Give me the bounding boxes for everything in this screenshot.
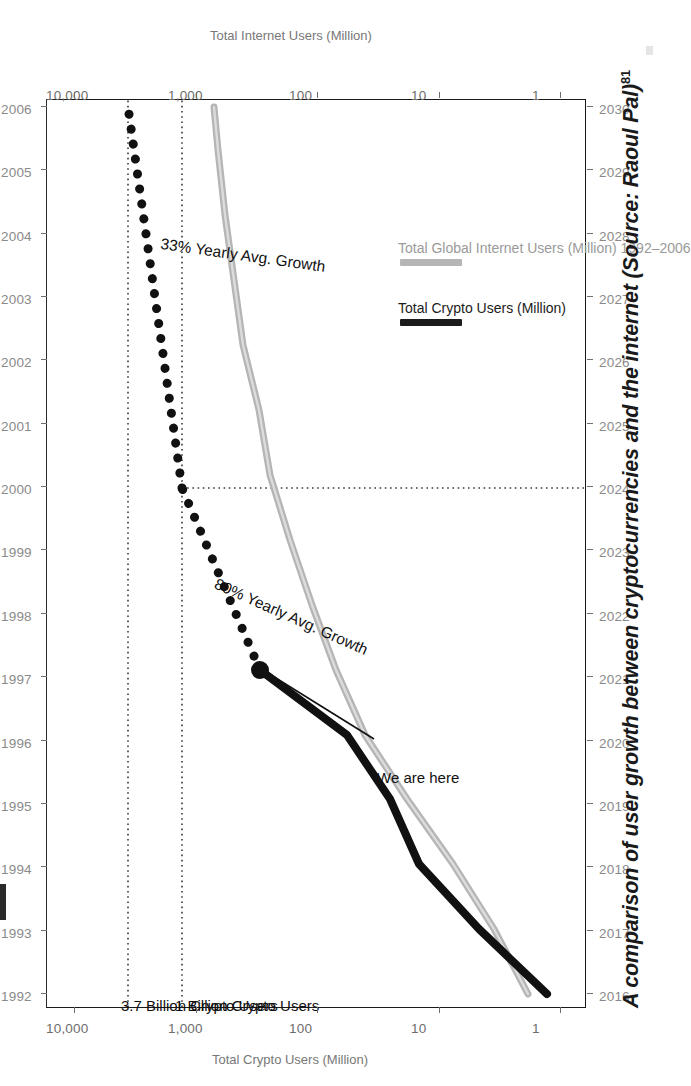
bottom-year-tick xyxy=(587,169,593,170)
left-axis-title: Total Crypto Users (Million) xyxy=(212,1052,368,1067)
top-year-tick xyxy=(41,296,47,297)
bottom-year-tick xyxy=(587,486,593,487)
bottom-year-tick xyxy=(587,740,593,741)
scan-artifact-mark xyxy=(0,884,6,920)
right-value-tick xyxy=(560,92,561,98)
top-year-tick xyxy=(41,803,47,804)
top-year-label: 2005 xyxy=(1,165,32,180)
bottom-year-tick xyxy=(587,676,593,677)
top-year-label: 2001 xyxy=(1,419,32,434)
bottom-year-tick xyxy=(587,423,593,424)
top-year-tick xyxy=(41,930,47,931)
left-value-label: 100 xyxy=(289,1021,312,1036)
right-value-tick xyxy=(317,92,318,98)
bottom-year-tick xyxy=(587,550,593,551)
right-value-label: 1,000 xyxy=(168,88,203,103)
left-value-tick xyxy=(196,1007,197,1013)
top-year-tick xyxy=(41,740,47,741)
top-year-tick xyxy=(41,866,47,867)
top-year-label: 1993 xyxy=(1,926,32,941)
top-year-label: 1992 xyxy=(1,989,32,1004)
legend-label-crypto: Total Crypto Users (Million) xyxy=(398,300,566,316)
bottom-year-tick xyxy=(587,233,593,234)
bottom-year-tick xyxy=(587,613,593,614)
annotation-we-are-here: We are here xyxy=(377,769,459,786)
top-year-tick xyxy=(41,169,47,170)
top-year-tick xyxy=(41,676,47,677)
left-value-tick xyxy=(74,1007,75,1013)
bottom-year-tick xyxy=(587,930,593,931)
top-year-label: 1997 xyxy=(1,672,32,687)
left-value-tick xyxy=(439,1007,440,1013)
bottom-year-tick xyxy=(587,866,593,867)
top-year-label: 2002 xyxy=(1,355,32,370)
we-are-here-marker xyxy=(251,661,269,679)
we-are-here-leader-line xyxy=(263,670,374,739)
top-year-tick xyxy=(41,423,47,424)
legend-label-internet: Total Global Internet Users (Million) 19… xyxy=(398,240,691,256)
legend-swatch-crypto xyxy=(400,319,462,326)
bottom-year-tick xyxy=(587,296,593,297)
annotation-threshold-1-billion: 1 Billion Crypto Users xyxy=(175,997,319,1014)
right-value-tick xyxy=(439,92,440,98)
top-year-tick xyxy=(41,359,47,360)
chart-legend: Total Crypto Users (Million) Total Globa… xyxy=(392,100,562,340)
top-year-tick xyxy=(41,550,47,551)
top-year-label: 1995 xyxy=(1,799,32,814)
top-year-tick xyxy=(41,106,47,107)
right-axis-title: Total Internet Users (Million) xyxy=(210,28,372,43)
top-year-tick xyxy=(41,613,47,614)
left-value-tick xyxy=(560,1007,561,1013)
caption-footnote: 81 xyxy=(618,70,633,84)
top-year-label: 1999 xyxy=(1,546,32,561)
right-value-label: 10,000 xyxy=(46,88,89,103)
top-year-label: 2006 xyxy=(1,102,32,117)
top-year-label: 2004 xyxy=(1,229,32,244)
top-year-label: 2003 xyxy=(1,292,32,307)
right-value-label: 100 xyxy=(289,88,312,103)
legend-swatch-internet xyxy=(400,259,462,266)
bottom-year-tick xyxy=(587,106,593,107)
left-value-tick xyxy=(317,1007,318,1013)
left-value-label: 1,000 xyxy=(168,1021,203,1036)
left-value-label: 10 xyxy=(411,1021,426,1036)
top-year-label: 1996 xyxy=(1,736,32,751)
scan-artifact-faint xyxy=(646,46,653,55)
top-year-tick xyxy=(41,486,47,487)
figure-caption: A comparison of user growth between cryp… xyxy=(618,68,644,1008)
bottom-year-tick xyxy=(587,803,593,804)
bottom-year-tick xyxy=(587,359,593,360)
top-year-label: 1998 xyxy=(1,609,32,624)
caption-text: A comparison of user growth between cryp… xyxy=(619,84,643,1008)
top-year-label: 2000 xyxy=(1,482,32,497)
top-year-label: 1994 xyxy=(1,862,32,877)
top-year-tick xyxy=(41,993,47,994)
left-value-label: 1 xyxy=(532,1021,540,1036)
bottom-year-tick xyxy=(587,993,593,994)
top-year-tick xyxy=(41,233,47,234)
projection-33-percent xyxy=(128,107,182,488)
left-value-label: 10,000 xyxy=(46,1021,89,1036)
